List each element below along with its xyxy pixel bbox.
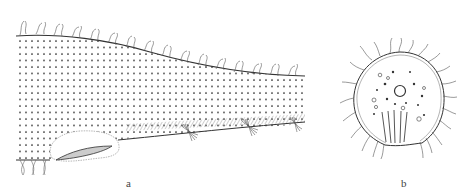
figure-plate [0,0,473,195]
panel-b-label: b [401,177,407,189]
panel-a-drawing [16,21,306,175]
panel-a-label: a [126,177,131,189]
panel-b-drawing [340,38,457,159]
